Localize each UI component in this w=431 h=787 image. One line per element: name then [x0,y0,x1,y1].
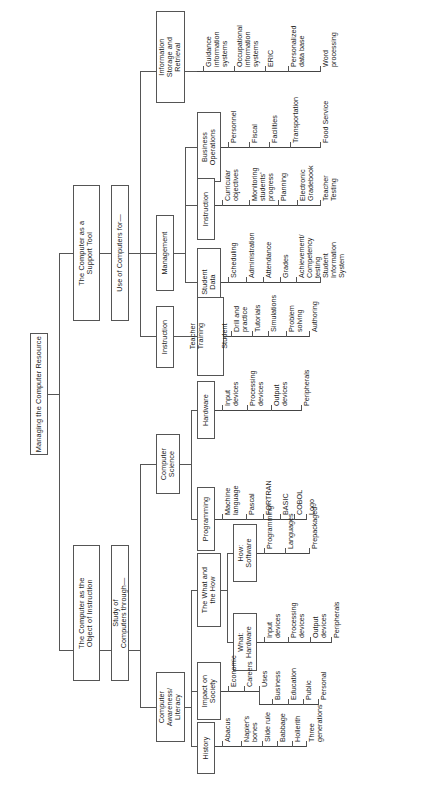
leaf-mgmt-instruction-teacher-testing: Teacher Testing [322,175,338,201]
node-impact-on-society: Impact on Society [197,662,221,720]
leaf-history-abacus: Abacus [224,718,232,742]
connector-isr-bus [197,71,320,72]
leaf-history-hollerith: Hollerith [294,716,302,742]
node-cs-programming-label: Programming [202,497,210,541]
leaf-isr-occupational: Occupational information systems [236,25,260,67]
leaf-instruction-simulations: Simulations [270,295,278,332]
node-support-tool-label: The Computer as a Support Tool [78,221,95,286]
node-object-of-instruction-label: The Computer as the Object of Instructio… [78,577,95,648]
node-what-hardware-label: What: Hardware [237,626,253,658]
leaf-history-slide-rule: Slide rule [264,712,272,742]
leaf-uses-public: Public [305,680,313,700]
node-management-instruction: Instruction [197,178,215,240]
node-how-software: How: Software [233,524,257,582]
leaf-business-facilities: Facilities [271,115,279,143]
leaf-business-transportation: Transportation [292,97,300,143]
connector-study-stub [129,650,140,651]
leaf-student-data-achievement: Achievement/ Competency testing [298,234,322,278]
connector-awareness-spine [191,590,192,746]
node-instruction: Instruction [156,306,174,368]
connector-support-to-subhead [100,253,111,254]
node-business-operations: Business Operations [197,112,221,182]
node-support-tool: The Computer as a Support Tool [73,185,100,321]
leaf-cs-hardware-peripherals: Peripherals [303,370,311,406]
connector-use-stub [129,253,140,254]
leaf-isr-eric: ERIC [267,50,275,67]
connector-student-data-bus [221,282,320,283]
leaf-business-personnel: Personnel [230,111,238,143]
leaf-mgmt-instruction-curricular: Curricular objectives [224,169,240,201]
leaf-history-napiers-bones: Napier's bones [243,716,259,742]
connector-uses-drop [259,686,260,704]
leaf-impact-uses: Uses [261,671,269,687]
connector-root-spine [59,253,60,650]
node-cs-hardware-label: Hardware [202,394,210,426]
leaf-instruction-problem-solving: Problem solving [288,305,304,332]
leaf-student-data-grades: Grades [282,254,290,278]
leaf-instruction-authoring: Authoring [311,301,319,332]
leaf-impact-economic: Economic [230,655,238,687]
leaf-cs-programming-basic: BASIC [282,493,290,515]
node-root: Managing the Computer Resource [30,333,48,455]
connector-cs-stub [180,464,191,465]
node-history-label: History [202,736,210,759]
node-business-operations-label: Business Operations [201,129,217,165]
leaf-software-languages: Languages [287,513,295,549]
connector-study-to-computer-science [140,464,156,465]
connector-management-spine [185,147,186,282]
connector-cs-spine [191,410,192,519]
node-cs-programming: Programming [197,487,215,551]
node-management-label: Management [161,232,169,275]
node-study-of-computers: Study of Computers through— [111,545,129,681]
node-use-of-computers-label: Use of Computers for— [116,214,124,292]
node-study-of-computers-label: Study of Computers through— [112,578,128,649]
node-management: Management [156,215,174,291]
connector-use-spine [140,71,141,336]
node-impact-on-society-label: Impact on Society [201,675,217,707]
connector-management-to-instruction [185,205,197,206]
leaf-impact-careers: Careers [246,661,254,687]
connector-use-to-isr [140,71,156,72]
leaf-mgmt-instruction-monitoring: Monitoring students' progress [251,167,275,201]
leaf-student-data-scheduling: Scheduling [230,242,238,278]
connector-management-to-student-data [185,282,197,283]
tree-diagram: Managing the Computer Resource The Compu… [0,0,431,787]
leaf-isr-guidance: Guidance information systems [205,31,229,67]
leaf-what-hardware-output: Output devices [312,614,328,638]
leaf-cs-programming-pascal: Pascal [248,493,256,515]
leaf-student-data-administration: Administration [248,232,256,278]
node-what-and-how: The What and the How [197,553,221,627]
leaf-what-hardware-processing: Processing devices [290,602,306,638]
connector-root-stub [48,394,59,395]
node-what-and-how-label: The What and the How [201,567,217,613]
node-computer-science-label: Computer Science [160,448,176,480]
connector-isr-bus-stub [185,71,197,72]
node-use-of-computers: Use of Computers for— [111,185,129,321]
leaf-cs-hardware-processing: Processing devices [249,370,265,406]
connector-study-to-awareness [140,707,156,708]
node-object-of-instruction: The Computer as the Object of Instructio… [73,545,100,681]
leaf-mgmt-instruction-gradebook: Electronic Gradebook [299,165,315,201]
leaf-instruction-tutorials: Tutorials [254,305,262,332]
connector-what-hardware-bus [257,642,331,643]
node-history: History [197,722,215,774]
leaf-software-prepackaged: Prepackaged [311,507,319,549]
leaf-cs-programming-cobol: COBOL [296,490,304,515]
connector-instruction-bus [224,336,309,337]
connector-business-bus [221,147,320,148]
node-management-instruction-label: Instruction [202,192,210,226]
leaf-software-programming: Programming [266,506,274,549]
leaf-cs-programming-machine: Machine language [224,485,240,515]
leaf-uses-personal: Personal [320,672,328,700]
connector-study-spine [140,464,141,707]
node-computer-awareness-literacy: Computer Awareness/ Literacy [156,672,185,742]
node-information-storage-retrieval-label: Information Storage and Retrieval [158,37,182,77]
connector-management-stub [174,253,185,254]
connector-cs-hardware-bus [215,410,301,411]
leaf-what-hardware-peripherals: Peripherals [333,602,341,638]
leaf-isr-word-processing: Word processing [322,32,338,67]
node-computer-awareness-literacy-label: Computer Awareness/ Literacy [158,688,182,726]
leaf-what-hardware-input: Input devices [266,614,282,638]
leaf-cs-hardware-output: Output devices [273,382,289,406]
leaf-mgmt-instruction-planning: Planning [280,173,288,201]
